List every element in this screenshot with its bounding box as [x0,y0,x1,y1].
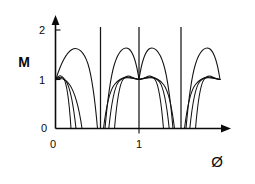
curve-group-center-right [139,48,175,129]
asymptote-lines-group [101,27,182,129]
magnetization-vs-flux-plot: 2 1 0 0 1 M Ø [0,0,255,184]
curve-lobe-right-b [190,77,220,129]
curve-lobe-center-right-c [139,78,175,129]
axes-group [52,15,231,132]
tick-marks-group [56,30,140,134]
curve-lobe-center-left-b [109,77,139,129]
y-axis-title: M [18,54,30,70]
x-axis-title: Ø [211,153,223,170]
tick-labels-group: 2 1 0 0 1 [39,24,142,150]
curve-lobe-right-c [185,78,221,129]
x-tick-label-1: 1 [136,138,142,150]
y-axis-arrow-icon [52,15,60,25]
curve-group-center-left [104,48,140,129]
curve-lobe-center-left-c [104,78,140,129]
x-axis-arrow-icon [221,125,231,133]
curve-lobe-center-left-a [115,76,140,128]
curve-lobe-center-right-b [139,77,169,129]
curve-lobe-right-a [196,76,221,128]
y-tick-label-1: 1 [39,74,45,86]
y-tick-label-0: 0 [41,122,47,134]
axis-titles-group: M Ø [18,54,223,170]
y-tick-label-2: 2 [39,24,45,36]
curve-group-left [56,49,98,129]
curve-group-right [185,48,221,129]
curve-lobe-center-right-a [139,76,164,128]
figure-root: 2 1 0 0 1 M Ø [0,0,255,184]
x-tick-label-0: 0 [50,138,56,150]
curve-lobe-left-outer [56,49,98,129]
